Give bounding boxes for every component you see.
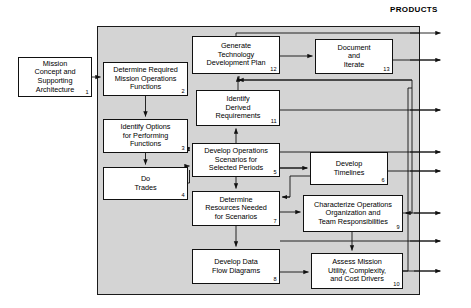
node-number: 8 xyxy=(273,276,276,282)
node-label: Identify Derived Requirements xyxy=(214,95,263,121)
node-label: Develop Data Flow Diagrams xyxy=(210,258,262,275)
node-develop-operations-scenarios-selected-periods[interactable]: Develop Operations Scenarios for Selecte… xyxy=(192,143,280,177)
node-label: Mission Concept and Supporting Architect… xyxy=(33,60,78,94)
node-number: 4 xyxy=(181,192,184,198)
node-develop-data-flow-diagrams[interactable]: Develop Data Flow Diagrams 8 xyxy=(192,249,280,284)
node-number: 5 xyxy=(273,169,276,175)
edge-6-to-7-feedback xyxy=(283,176,310,197)
node-mission-concept-architecture[interactable]: Mission Concept and Supporting Architect… xyxy=(18,57,92,97)
node-assess-mission-utility-complexity-cost-drivers[interactable]: Assess Mission Utility, Complexity, and … xyxy=(311,253,403,289)
node-generate-technology-development-plan[interactable]: Generate Technology Development Plan 12 xyxy=(192,36,280,74)
node-label: Identify Options for Performing Function… xyxy=(119,123,173,149)
products-label: PRODUCTS xyxy=(390,5,438,14)
node-label: Develop Timelines xyxy=(332,160,367,177)
node-number: 1 xyxy=(85,89,88,95)
node-characterize-operations-organization-team-responsibilities[interactable]: Characterize Operations Organization and… xyxy=(303,195,403,232)
node-number: 7 xyxy=(273,218,276,224)
node-number: 11 xyxy=(271,118,277,124)
node-number: 9 xyxy=(396,224,399,230)
feedback-bus-from-10 xyxy=(403,88,412,271)
node-label: Characterize Operations Organization and… xyxy=(312,201,394,227)
node-develop-timelines[interactable]: Develop Timelines 6 xyxy=(310,152,388,185)
node-identify-derived-requirements[interactable]: Identify Derived Requirements 11 xyxy=(196,90,280,126)
node-document-and-iterate[interactable]: Document and Iterate 13 xyxy=(315,39,393,74)
edge-feedback-to-12 xyxy=(239,76,412,80)
node-label: Do Trades xyxy=(132,175,158,192)
node-identify-options-for-performing-functions[interactable]: Identify Options for Performing Function… xyxy=(103,119,188,153)
node-label: Document and Iterate xyxy=(336,44,373,70)
node-label: Determine Required Mission Operations Fu… xyxy=(111,66,179,92)
node-label: Develop Operations Scenarios for Selecte… xyxy=(202,147,270,173)
node-number: 6 xyxy=(381,177,384,183)
node-label: Generate Technology Development Plan xyxy=(205,42,268,68)
node-number: 10 xyxy=(393,281,399,287)
diagram-root: PRODUCTS xyxy=(0,0,471,308)
node-do-trades[interactable]: Do Trades 4 xyxy=(103,167,188,200)
node-number: 3 xyxy=(181,145,184,151)
node-determine-required-mission-operations-functions[interactable]: Determine Required Mission Operations Fu… xyxy=(103,62,188,96)
node-number: 2 xyxy=(181,88,184,94)
node-determine-resources-needed-scenarios[interactable]: Determine Resources Needed for Scenarios… xyxy=(192,191,280,226)
node-number: 13 xyxy=(383,66,389,72)
node-label: Determine Resources Needed for Scenarios xyxy=(203,196,269,222)
node-number: 12 xyxy=(270,66,276,72)
node-label: Assess Mission Utility, Complexity, and … xyxy=(326,258,388,284)
